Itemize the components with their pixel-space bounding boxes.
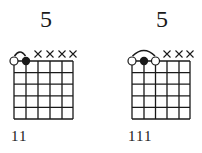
open-dot-icon [152, 57, 160, 65]
fretboard-lines [132, 61, 190, 119]
filled-dot-icon [140, 57, 148, 65]
chord-diagram-2: 5 111 [101, 0, 202, 153]
open-dot-icon [128, 57, 136, 65]
filled-dot-icon [22, 57, 30, 65]
muted-string-icons [35, 51, 77, 58]
finger-numbers: 111 [128, 128, 152, 144]
barre-arc-icon [133, 51, 156, 57]
barre-arc-icon [15, 52, 26, 56]
muted-string-icons [164, 51, 194, 58]
chord-diagram-1: 5 11 [0, 0, 101, 153]
finger-numbers: 11 [11, 128, 27, 144]
open-dot-icon [10, 57, 18, 65]
fretboard-lines [14, 61, 73, 119]
